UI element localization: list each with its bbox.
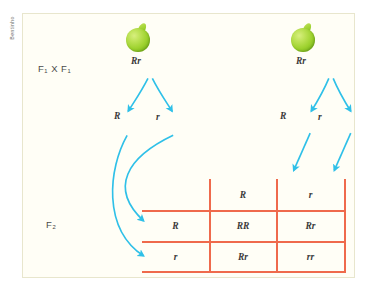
grid-vline-3: [344, 179, 346, 272]
punnett-row-header-2: r: [142, 242, 209, 271]
punnett-column-header-2: r: [277, 179, 344, 210]
arrow-left-parent-to-R: [128, 78, 148, 111]
punnett-column-header-1: R: [210, 179, 276, 210]
arrow-left-parent-to-r: [152, 78, 172, 111]
arrow-right-parent-to-r: [333, 78, 351, 111]
punnett-cell-0-0: RR: [210, 211, 276, 241]
arrow-right-R-to-column: [294, 133, 310, 170]
credit-label: Bentinho: [9, 0, 21, 56]
punnett-cell-0-1: Rr: [277, 211, 344, 241]
arrow-right-parent-to-R: [311, 78, 329, 111]
figure-panel: F₁ X F₁ F₂ Rr Rr R r R r: [22, 13, 355, 278]
punnett-cell-1-0: Rr: [210, 242, 276, 271]
arrow-left-R-to-row-r: [113, 135, 144, 256]
punnett-row-header-1: R: [142, 211, 209, 241]
arrow-right-r-to-column: [334, 133, 350, 170]
punnett-cell-1-1: rr: [277, 242, 344, 271]
grid-hline-3: [142, 271, 346, 273]
figure-stage: Bentinho F₁ X F₁ F₂ Rr Rr R r R r: [0, 0, 365, 292]
punnett-corner: [142, 179, 209, 210]
punnett-square: R r R RR Rr r Rr rr: [142, 179, 346, 272]
